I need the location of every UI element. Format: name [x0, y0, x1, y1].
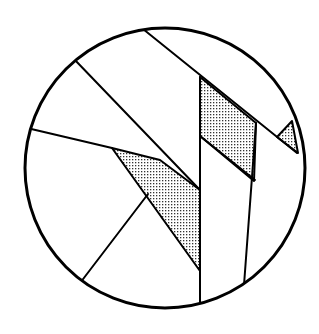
- center-left-stipple: [112, 148, 200, 271]
- upper-middle-stipple: [200, 77, 256, 181]
- right-triangle-stipple: [277, 121, 298, 153]
- lower-left-diagonal-line: [77, 194, 148, 287]
- diagram-canvas: [0, 0, 319, 334]
- stippled-regions: [112, 77, 298, 271]
- left-chord-line: [27, 128, 112, 148]
